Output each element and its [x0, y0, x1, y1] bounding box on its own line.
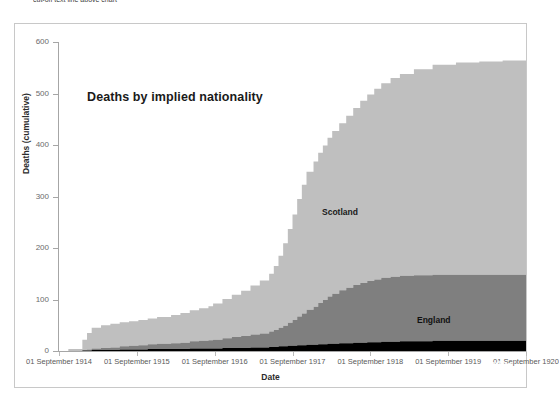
- y-axis-tick: 600: [53, 42, 58, 43]
- x-axis-tick: [59, 352, 60, 356]
- x-axis-tick-label: 01 September 1917: [260, 357, 326, 367]
- x-axis-tick-label: 01 September 1919: [415, 357, 481, 367]
- y-axis-tick-label: 300: [36, 191, 49, 202]
- series-label-scotland: Scotland: [322, 207, 358, 217]
- x-axis-tick: [137, 352, 138, 356]
- y-axis-tick-label: 100: [36, 294, 49, 305]
- y-axis-tick: 0: [53, 351, 58, 352]
- y-axis-tick-label: 600: [36, 36, 49, 47]
- x-axis-tick: [293, 352, 294, 356]
- x-axis-tick-label: 01 September 1916: [182, 357, 248, 367]
- cut-off-text-fragment: cut-off text line above chart: [33, 0, 143, 4]
- y-axis-tick: 300: [53, 197, 58, 198]
- y-axis-title: Deaths (cumulative): [21, 93, 31, 174]
- y-axis-tick-label: 200: [36, 242, 49, 253]
- x-axis-tick: [526, 352, 527, 356]
- y-axis-tick: 500: [53, 94, 58, 95]
- y-axis-tick: 200: [53, 248, 58, 249]
- x-axis-tick: [370, 352, 371, 356]
- x-axis-title: Date: [15, 372, 526, 382]
- x-axis-tick: [215, 352, 216, 356]
- series-label-other: Other: [489, 360, 512, 370]
- y-axis-tick: 400: [53, 145, 58, 146]
- x-axis-tick-label: 01 September 1918: [337, 357, 403, 367]
- chart-frame: Deaths by implied nationality Deaths (cu…: [14, 23, 527, 388]
- x-axis-tick: [448, 352, 449, 356]
- x-axis-tick-label: 01 September 1915: [104, 357, 170, 367]
- y-axis-tick-label: 0: [45, 345, 49, 356]
- y-axis-tick: 100: [53, 300, 58, 301]
- x-axis-tick-label: 01 September 1914: [26, 357, 92, 367]
- y-axis-tick-label: 400: [36, 139, 49, 150]
- cut-off-text-line: cut-off text line above chart: [33, 0, 143, 4]
- stacked-area-plot: [59, 42, 526, 351]
- y-axis-tick-label: 500: [36, 88, 49, 99]
- series-label-england: England: [417, 315, 451, 325]
- plot-area: [59, 42, 526, 351]
